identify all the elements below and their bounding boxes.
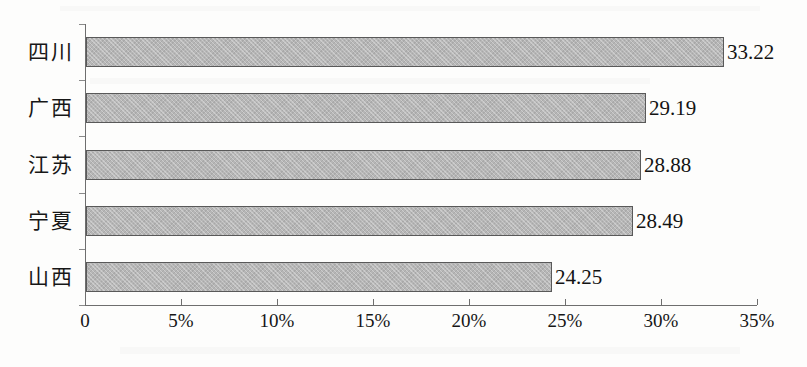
- value-axis-line: [85, 305, 757, 306]
- category-axis-tick: [79, 305, 85, 306]
- bar-value-sichuan: 33.22: [727, 39, 774, 65]
- value-axis-tick: [565, 299, 566, 305]
- bar-chart: 0 5% 10% 15% 20% 25% 30% 35% 四川 广西 江苏 宁夏…: [0, 0, 807, 367]
- category-label-guangxi: 广西: [28, 95, 74, 121]
- value-axis-tick-label: 20%: [452, 309, 487, 333]
- value-axis-tick-label: 35%: [740, 309, 775, 333]
- bar-jiangsu: [86, 150, 641, 180]
- scan-artifact: [120, 347, 740, 354]
- category-label-jiangsu: 江苏: [28, 152, 74, 178]
- bar-ningxia: [86, 206, 633, 236]
- bar-sichuan: [86, 37, 724, 67]
- value-axis-tick: [85, 299, 86, 305]
- bar-guangxi: [86, 93, 646, 123]
- bar-value-guangxi: 29.19: [649, 95, 696, 121]
- value-axis-tick-label: 15%: [356, 309, 391, 333]
- bar-shanxi: [86, 262, 552, 292]
- category-axis-tick: [79, 24, 85, 25]
- value-axis-tick-label: 10%: [260, 309, 295, 333]
- category-axis-tick: [79, 193, 85, 194]
- scan-artifact: [90, 78, 650, 84]
- category-axis-tick: [79, 249, 85, 250]
- scan-artifact: [60, 6, 760, 11]
- value-axis-tick-label: 5%: [168, 309, 193, 333]
- value-axis-tick: [373, 299, 374, 305]
- bar-value-jiangsu: 28.88: [644, 152, 691, 178]
- value-axis-tick: [277, 299, 278, 305]
- category-label-shanxi: 山西: [28, 264, 74, 290]
- value-axis-tick: [181, 299, 182, 305]
- category-label-sichuan: 四川: [28, 39, 74, 65]
- category-label-ningxia: 宁夏: [28, 208, 74, 234]
- category-axis-tick: [79, 80, 85, 81]
- bar-value-ningxia: 28.49: [636, 208, 683, 234]
- value-axis-tick: [661, 299, 662, 305]
- bar-value-shanxi: 24.25: [555, 264, 602, 290]
- value-axis-tick: [469, 299, 470, 305]
- value-axis-tick-label: 25%: [548, 309, 583, 333]
- category-axis-tick: [79, 136, 85, 137]
- value-axis-tick-label: 30%: [644, 309, 679, 333]
- value-axis-tick: [757, 299, 758, 305]
- value-axis-tick-label: 0: [80, 309, 90, 333]
